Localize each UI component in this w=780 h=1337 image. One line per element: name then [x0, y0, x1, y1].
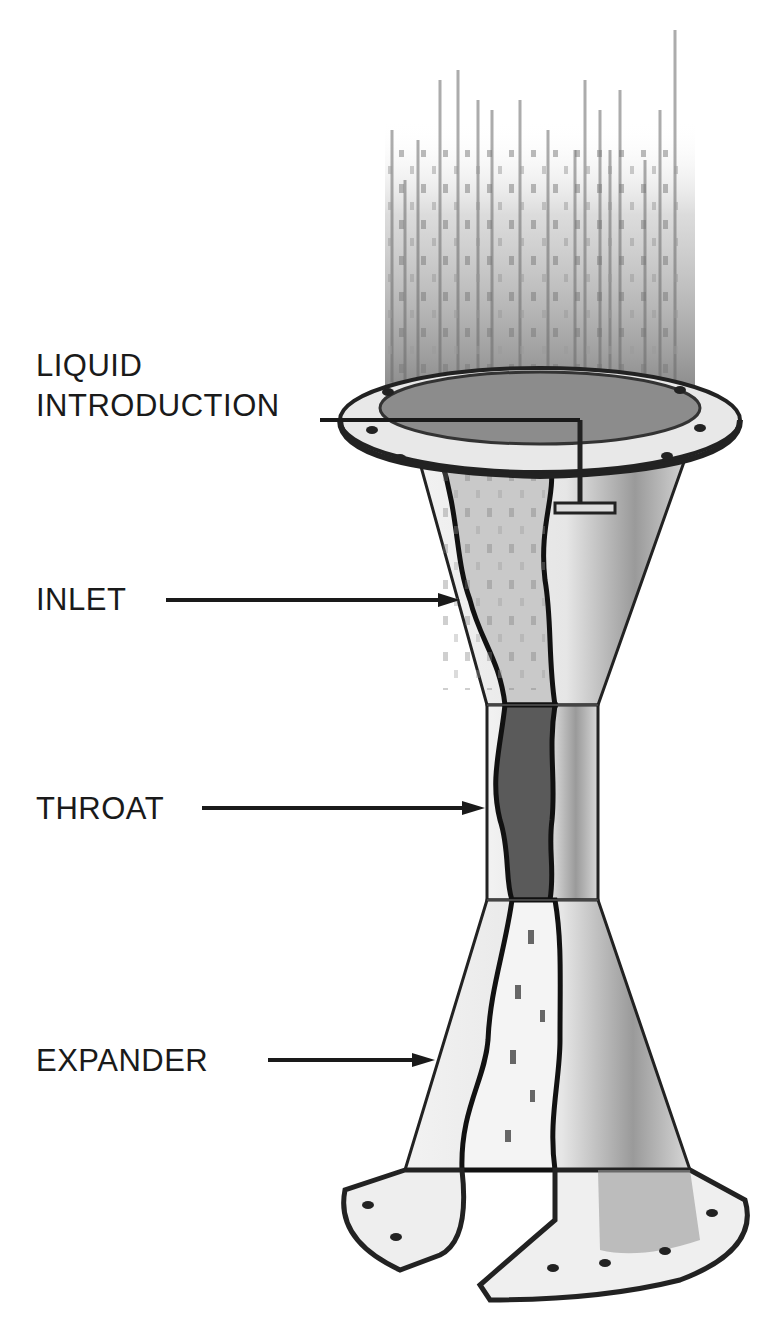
label-liquid-line2: INTRODUCTION: [36, 386, 280, 426]
bottom-flange: [344, 1170, 748, 1300]
venturi-scrubber-diagram: LIQUID INTRODUCTION INLET THROAT EXPANDE…: [0, 0, 780, 1337]
gas-stream-streaks: [385, 30, 695, 390]
label-liquid-line1: LIQUID: [36, 346, 280, 386]
label-liquid-introduction: LIQUID INTRODUCTION: [36, 346, 280, 426]
venturi-illustration: [0, 0, 780, 1337]
label-expander: EXPANDER: [36, 1041, 208, 1081]
label-inlet: INLET: [36, 580, 126, 620]
label-throat: THROAT: [36, 789, 164, 829]
